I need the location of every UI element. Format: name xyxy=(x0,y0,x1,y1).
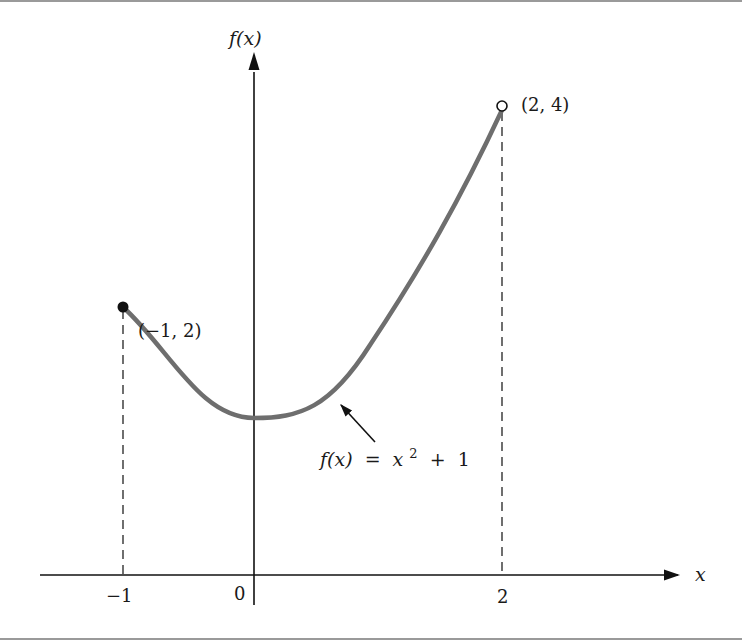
function-curve xyxy=(123,110,502,418)
x-tick-2: 2 xyxy=(497,586,508,607)
closed-endpoint-marker xyxy=(118,302,129,313)
open-endpoint-marker xyxy=(497,101,507,111)
x-axis-label: x xyxy=(695,563,706,585)
function-label: f(x) = x 2 + 1 xyxy=(318,440,470,470)
function-graph: x f(x) −1 0 2 (−1, 2) (2, 4) f(x) = x 2 … xyxy=(0,0,742,644)
annotation-arrow xyxy=(341,405,375,442)
x-tick-0: 0 xyxy=(234,583,245,604)
x-tick-neg1: −1 xyxy=(106,585,133,606)
x-axis-arrow-icon xyxy=(664,570,680,581)
y-axis-arrow-icon xyxy=(249,52,260,70)
y-axis-label: f(x) xyxy=(227,27,262,49)
point-label-left: (−1, 2) xyxy=(138,320,201,341)
point-label-right: (2, 4) xyxy=(521,94,569,115)
